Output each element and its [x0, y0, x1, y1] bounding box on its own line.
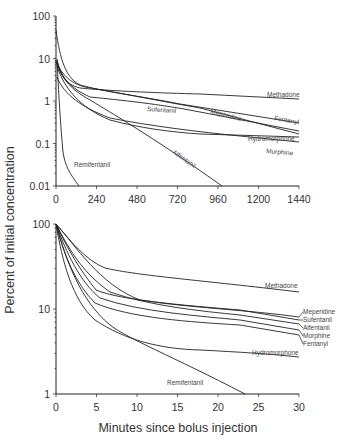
top-curve-methadone: [57, 59, 299, 99]
bottom-xtick-0: 0: [53, 401, 59, 413]
bottom-label-methadone: Methadone: [265, 282, 298, 289]
bottom-label-remifentanil: Remifentanil: [167, 379, 204, 386]
bottom-curve-alfentanil: [56, 224, 299, 324]
bottom-label-fentanyl: Fentanyl: [303, 340, 328, 348]
bottom-xtick-20: 20: [212, 401, 224, 413]
top-ytick-10: 10: [38, 53, 50, 65]
bottom-label-hydromorphone: Hydromorphone: [252, 349, 299, 357]
top-ytick-1: 1: [44, 95, 50, 107]
top-xtick-960: 960: [209, 193, 227, 205]
x-axis-title: Minutes since bolus injection: [98, 421, 257, 435]
opioid-concentration-chart: 100 10 1 0.1 0.01 0 240 480 720 960 1200…: [0, 0, 348, 447]
bottom-xtick-10: 10: [131, 401, 143, 413]
top-label-meperidine: Meperidine: [209, 107, 243, 123]
bottom-panel: 100 10 1 0 5 10 15 20 25 30 Methado: [32, 218, 335, 413]
top-xtick-240: 240: [88, 193, 106, 205]
top-ytick-0-01: 0.01: [30, 180, 51, 192]
top-xtick-1440: 1440: [287, 193, 311, 205]
top-label-fentanyl: Fentanyl: [274, 114, 300, 126]
bottom-ytick-10: 10: [38, 303, 50, 315]
top-xtick-1200: 1200: [247, 193, 271, 205]
top-curve-fentanyl: [56, 30, 299, 123]
bottom-curve-sufentanil: [56, 224, 299, 320]
bottom-xtick-30: 30: [293, 401, 305, 413]
top-xtick-720: 720: [169, 193, 187, 205]
bottom-y-ticks: [53, 224, 56, 394]
top-ytick-100: 100: [32, 10, 50, 22]
bottom-xtick-15: 15: [172, 401, 184, 413]
top-label-alfentanil: Alfentanil: [171, 148, 197, 169]
top-xtick-480: 480: [128, 193, 146, 205]
top-label-sufentanil: Sufentanil: [147, 105, 177, 114]
top-ytick-0-1: 0.1: [35, 138, 50, 150]
top-label-hydromorphone: Hydromorphone: [248, 135, 295, 143]
bottom-ytick-1: 1: [44, 388, 50, 400]
bottom-label-alfentanil: Alfentanil: [303, 324, 330, 331]
top-label-remifentanil: Remifentanil: [74, 161, 111, 168]
bottom-axes: [56, 224, 299, 394]
bottom-ytick-100: 100: [32, 218, 50, 230]
bottom-curve-methadone: [56, 224, 299, 292]
bottom-label-meperidine: Meperidine: [303, 308, 336, 316]
top-panel: 100 10 1 0.1 0.01 0 240 480 720 960 1200…: [30, 10, 311, 205]
y-axis-title: Percent of initial concentration: [3, 146, 17, 314]
bottom-curves: [56, 224, 299, 394]
bottom-curve-meperidine: [56, 224, 299, 317]
bottom-label-morphine: Morphine: [303, 332, 330, 340]
bottom-label-sufentanil: Sufentanil: [303, 316, 332, 323]
top-label-methadone: Methadone: [267, 91, 300, 98]
top-curve-sufentanil: [57, 62, 299, 131]
top-label-morphine: Morphine: [266, 147, 294, 157]
top-xtick-0: 0: [53, 193, 59, 205]
bottom-xtick-25: 25: [253, 401, 265, 413]
bottom-xtick-5: 5: [94, 401, 100, 413]
